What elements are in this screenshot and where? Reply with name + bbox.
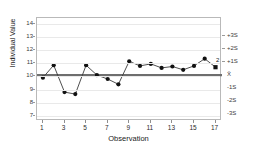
data-point [160,66,164,70]
data-point [203,57,207,61]
x-axis-tick-mark [171,120,172,123]
control-chart: 7891011121314 Individual Value +3S+2S+1S… [0,0,261,152]
x-axis-tick-mark [150,120,151,123]
data-point [73,92,77,96]
y-axis-tick-label: 8 [3,99,33,105]
sigma-axis: +3S+2S+1SX̄-1S-2S-3S [222,17,260,120]
data-point [181,68,185,72]
gridline [37,50,220,51]
x-axis-tick-mark [42,120,43,123]
gridline [37,90,220,91]
x-axis-tick-mark [215,120,216,123]
data-point [62,90,66,94]
sigma-label: -1S [227,84,236,90]
y-axis-tick-mark [33,102,35,103]
y-axis-tick-mark [33,89,35,90]
x-axis-tick-mark [64,120,65,123]
y-axis-tick-mark [33,62,35,63]
y-axis-title: Individual Value [9,0,17,88]
sigma-tick-mark [222,35,225,36]
gridline [37,24,220,25]
x-axis-tick-mark [128,120,129,123]
sigma-label: X̄ [227,71,231,77]
data-point-violation [213,65,217,69]
data-point [170,64,174,68]
gridline [37,116,220,117]
plot-area [36,17,221,120]
x-axis-tick-label: 1 [35,124,49,131]
sigma-tick-mark [222,48,225,49]
x-axis-tick-label: 11 [143,124,157,131]
x-axis: 1357911131517 [36,120,221,134]
y-axis-tick-mark [33,115,35,116]
x-axis-tick-label: 15 [186,124,200,131]
y-axis-tick-mark [33,36,35,37]
gridline [37,37,220,38]
x-axis-title: Observation [36,134,221,143]
sigma-label: +2S [227,45,238,51]
y-axis-tick-label: 14 [3,20,33,26]
y-axis-tick-label: 7 [3,112,33,118]
sigma-label: +1S [227,58,238,64]
x-axis-tick-label: 17 [208,124,222,131]
x-axis-tick-label: 7 [100,124,114,131]
x-axis-tick-label: 5 [78,124,92,131]
x-axis-tick-label: 9 [121,124,135,131]
x-axis-tick-label: 13 [164,124,178,131]
x-axis-tick-mark [85,120,86,123]
x-axis-tick-label: 3 [57,124,71,131]
data-point [138,64,142,68]
y-axis-tick-label: 11 [3,59,33,65]
gridline [37,103,220,104]
y-axis-tick-mark [33,75,35,76]
data-point [192,64,196,68]
gridline [37,76,220,77]
y-axis-tick-label: 12 [3,46,33,52]
sigma-label: -3S [227,110,236,116]
y-axis-tick-mark [33,23,35,24]
series-layer [37,18,220,119]
sigma-label: +3S [227,32,238,38]
y-axis-tick-label: 13 [3,33,33,39]
y-axis-tick-mark [33,49,35,50]
x-axis-tick-mark [107,120,108,123]
violation-annotation: 2 [216,57,219,63]
x-axis-tick-mark [193,120,194,123]
data-point [116,82,120,86]
gridline [37,63,220,64]
y-axis-tick-label: 9 [3,86,33,92]
data-point [106,77,110,81]
y-axis-tick-label: 10 [3,72,33,78]
sigma-label: -2S [227,97,236,103]
sigma-tick-mark [222,61,225,62]
